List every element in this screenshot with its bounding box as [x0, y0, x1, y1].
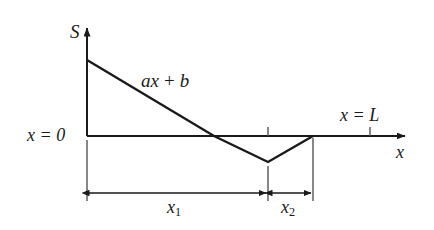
origin-label: x = 0	[27, 126, 65, 144]
x1-subscript: 1	[175, 205, 181, 219]
x-axis-label: x	[396, 143, 404, 161]
s-of-x-curve	[87, 60, 313, 162]
curve-equation-label: ax+b	[141, 71, 189, 90]
equation-operator: +	[164, 70, 175, 91]
figure-canvas: S ax+b x = 0 x = L x x1 x2	[0, 0, 434, 230]
domain-end-label: x = L	[340, 106, 379, 124]
x2-subscript: 2	[289, 205, 295, 219]
y-axis-label: S	[70, 22, 80, 41]
dimension-label-x1: x1	[167, 198, 181, 218]
equation-term-b: b	[180, 70, 190, 91]
x1-variable: x	[167, 197, 175, 217]
equation-term-a: ax	[141, 70, 159, 91]
dimension-label-x2: x2	[281, 198, 295, 218]
x2-variable: x	[281, 197, 289, 217]
